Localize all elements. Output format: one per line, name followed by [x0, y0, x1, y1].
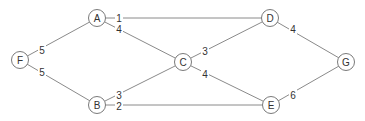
- edge-F-B: [20, 60, 97, 105]
- edge-weight-E-G: 6: [290, 90, 296, 101]
- node-label: B: [94, 100, 101, 111]
- node-label: F: [17, 55, 23, 66]
- edge-C-D: [183, 18, 270, 62]
- graph-diagram: 5514323446 FABCDEG: [0, 0, 365, 121]
- edge-weight-B-E: 2: [116, 101, 122, 112]
- nodes-layer: FABCDEG: [12, 10, 355, 114]
- edge-D-G: [270, 18, 346, 62]
- node-A: A: [89, 10, 106, 27]
- edge-C-E: [183, 62, 271, 105]
- node-label: G: [342, 57, 350, 68]
- edge-F-A: [20, 18, 97, 60]
- node-label: D: [266, 13, 273, 24]
- edge-weight-A-D: 1: [116, 13, 122, 24]
- edge-B-C: [97, 62, 183, 105]
- edge-weight-C-E: 4: [202, 69, 208, 80]
- edge-weight-B-C: 3: [116, 90, 122, 101]
- node-label: E: [268, 100, 275, 111]
- node-label: C: [179, 57, 186, 68]
- edge-weight-F-A: 5: [39, 45, 45, 56]
- node-C: C: [175, 54, 192, 71]
- node-B: B: [89, 97, 106, 114]
- edge-A-C: [97, 18, 183, 62]
- node-E: E: [263, 97, 280, 114]
- edge-weight-F-B: 5: [39, 67, 45, 78]
- weights-layer: 5514323446: [38, 12, 297, 112]
- node-G: G: [338, 54, 355, 71]
- node-F: F: [12, 52, 29, 69]
- edge-weight-D-G: 4: [290, 24, 296, 35]
- node-D: D: [262, 10, 279, 27]
- node-label: A: [94, 13, 101, 24]
- edge-E-G: [271, 62, 346, 105]
- edge-weight-C-D: 3: [202, 46, 208, 57]
- edge-weight-A-C: 4: [116, 24, 122, 35]
